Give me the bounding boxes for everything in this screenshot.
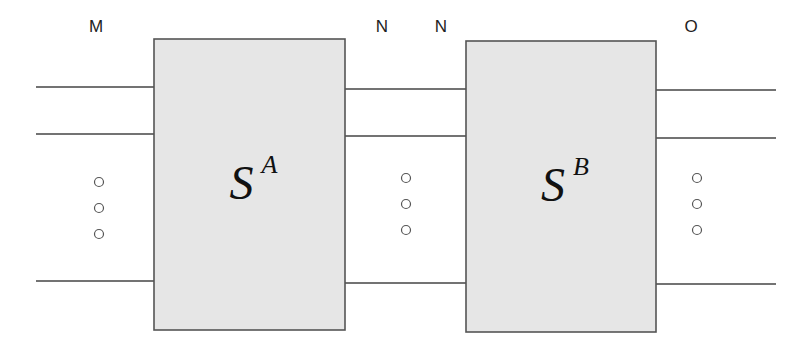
block-superscript: A: [260, 150, 278, 179]
ellipsis-dot-icon: [95, 204, 104, 213]
ellipsis-dot-icon: [693, 174, 702, 183]
ellipsis-dot-icon: [693, 200, 702, 209]
ellipsis-dot-icon: [95, 178, 104, 187]
block-SA: SA: [154, 39, 345, 330]
wires: [36, 87, 776, 284]
port-label-O: O: [684, 17, 697, 36]
ellipsis-dot-icon: [402, 226, 411, 235]
block-SB: SB: [466, 41, 656, 332]
block-symbol: S: [541, 158, 565, 211]
block-symbol: S: [230, 156, 254, 209]
port-label-M: M: [89, 17, 103, 36]
port-label-N-left: N: [376, 17, 388, 36]
port-label-N-right: N: [435, 17, 447, 36]
port-labels: MNNO: [89, 17, 698, 36]
block-superscript: B: [573, 152, 589, 181]
ellipsis-dot-icon: [402, 174, 411, 183]
two-block-cascade-diagram: SASB MNNO: [0, 0, 808, 352]
ellipsis-dot-icon: [693, 226, 702, 235]
ellipsis-dot-icon: [95, 230, 104, 239]
ellipsis-dot-icon: [402, 200, 411, 209]
blocks: SASB: [154, 39, 656, 332]
